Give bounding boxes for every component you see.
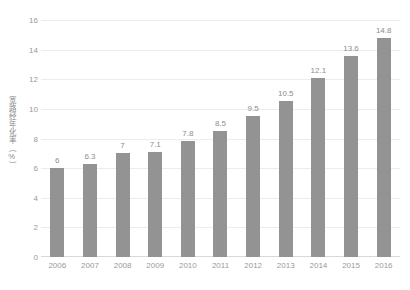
bar[interactable] [148,152,162,257]
y-axis-tick-labels: 0246810121416 [18,0,38,290]
bar-value-label: 9.5 [248,104,259,113]
x-axis-tick-labels: 2006200720082009201020112012201320142015… [41,261,400,281]
bar-group: 10.5 [269,20,302,257]
bar-group: 12.1 [302,20,335,257]
bar-value-label: 10.5 [278,89,294,98]
bar[interactable] [344,56,358,257]
y-axis-tick-label: 6 [18,164,38,173]
bars-layer: 66.377.17.88.59.510.512.113.614.8 [41,20,400,257]
bar-group: 8.5 [204,20,237,257]
bar[interactable] [181,141,195,257]
y-axis-tick-label: 4 [18,193,38,202]
bar-value-label: 13.6 [343,44,359,53]
bar-value-label: 14.8 [376,26,392,35]
x-axis-tick-label: 2015 [342,261,360,270]
y-axis-tick-label: 12 [18,75,38,84]
bar-chart: 宽路经年化率（%） 0246810121416 66.377.17.88.59.… [0,0,410,290]
x-axis-tick-label: 2012 [244,261,262,270]
bar-group: 7 [106,20,139,257]
bar-value-label: 6.3 [84,152,95,161]
bar[interactable] [116,153,130,257]
x-axis-tick-label: 2016 [375,261,393,270]
bar-group: 7.1 [139,20,172,257]
x-axis-tick-label: 2010 [179,261,197,270]
bar-value-label: 6 [55,156,59,165]
x-axis-tick-label: 2013 [277,261,295,270]
x-axis-tick-label: 2011 [212,261,229,270]
bar[interactable] [246,116,260,257]
bar[interactable] [83,164,97,257]
x-axis-tick-label: 2008 [114,261,132,270]
bar-group: 6.3 [74,20,107,257]
y-axis-tick-label: 16 [18,16,38,25]
bar-value-label: 7 [120,141,124,150]
y-axis-tick-label: 10 [18,104,38,113]
bar-group: 13.6 [335,20,368,257]
bar-group: 7.8 [172,20,205,257]
bar[interactable] [311,78,325,257]
x-axis-tick-label: 2014 [310,261,328,270]
x-axis-tick-label: 2009 [146,261,164,270]
bar-value-label: 7.1 [150,140,161,149]
y-axis-title: 宽路经年化率（%） [0,96,16,169]
bar-group: 14.8 [367,20,400,257]
bar-value-label: 8.5 [215,119,226,128]
bar[interactable] [377,38,391,257]
bar-value-label: 12.1 [311,66,327,75]
bar-value-label: 7.8 [182,129,193,138]
bar-group: 9.5 [237,20,270,257]
x-axis-tick-label: 2006 [48,261,66,270]
plot-area: 66.377.17.88.59.510.512.113.614.8 [41,20,400,257]
bar[interactable] [279,101,293,257]
x-axis-tick-label: 2007 [81,261,99,270]
y-axis-tick-label: 8 [18,134,38,143]
bar-group: 6 [41,20,74,257]
bar[interactable] [50,168,64,257]
y-axis-tick-label: 14 [18,45,38,54]
bar[interactable] [213,131,227,257]
y-axis-tick-label: 2 [18,223,38,232]
y-axis-tick-label: 0 [18,253,38,262]
